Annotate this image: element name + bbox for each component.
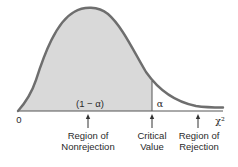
origin-label: 0: [14, 114, 24, 125]
arrow-critical-value: [150, 114, 154, 128]
annotation-line1: Region of: [53, 130, 123, 141]
x-axis-label: χ²: [210, 115, 230, 126]
nonrejection-area: [18, 8, 152, 111]
annotation-line1: Region of: [172, 130, 226, 141]
region-of-rejection-label: Region of Rejection: [172, 130, 226, 152]
annotation-line2: Value: [132, 141, 172, 152]
rejection-area-label: α: [154, 98, 166, 109]
arrow-nonrejection: [86, 114, 90, 128]
annotation-line2: Nonrejection: [53, 141, 123, 152]
nonrejection-area-label: (1 − α): [68, 98, 112, 109]
annotation-line2: Rejection: [172, 141, 226, 152]
region-of-nonrejection-label: Region of Nonrejection: [53, 130, 123, 152]
critical-value-label: Critical Value: [132, 130, 172, 152]
arrow-rejection: [196, 114, 200, 128]
annotation-line1: Critical: [132, 130, 172, 141]
